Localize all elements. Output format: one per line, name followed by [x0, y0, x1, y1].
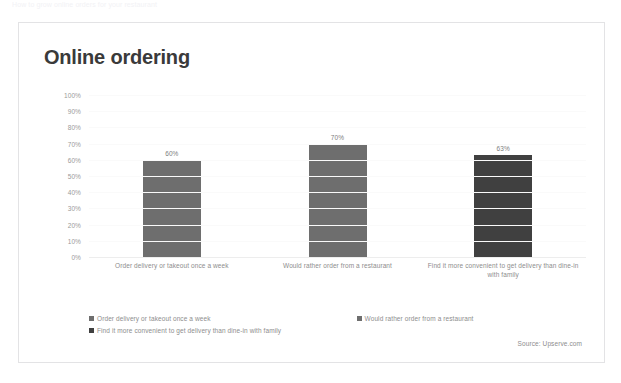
gridline-30: [89, 208, 586, 209]
legend-row-top: Order delivery or takeout once a week Wo…: [89, 315, 559, 322]
gridline-90: [89, 111, 586, 112]
y-axis-tick-100: 100%: [64, 92, 81, 99]
y-axis-tick-0: 0%: [71, 254, 81, 261]
y-axis-tick-90: 90%: [68, 108, 81, 115]
legend-label-2: Find it more convenient to get delivery …: [97, 327, 281, 334]
gridline-10: [89, 241, 586, 242]
plot-area: 60%70%63%: [89, 95, 586, 257]
y-axis-tick-30: 30%: [68, 205, 81, 212]
gridline-50: [89, 176, 586, 177]
legend-swatch-icon-2: [89, 328, 94, 333]
legend-label-1: Would rather order from a restaurant: [365, 315, 474, 322]
y-axis-tick-10: 10%: [68, 237, 81, 244]
gridline-80: [89, 127, 586, 128]
y-axis-tick-20: 20%: [68, 221, 81, 228]
y-axis-tick-70: 70%: [68, 140, 81, 147]
legend-swatch-icon-1: [357, 316, 362, 321]
source-attribution: Source: Upserve.com: [518, 340, 582, 347]
gridline-0: [89, 257, 586, 258]
gridline-60: [89, 160, 586, 161]
chart-legend: Order delivery or takeout once a week Wo…: [89, 315, 559, 339]
chart-plot: 100%90%80%70%60%50%40%30%20%10%0% 60%70%…: [45, 95, 590, 291]
legend-item-0[interactable]: Order delivery or takeout once a week: [89, 315, 211, 322]
y-axis-tick-40: 40%: [68, 189, 81, 196]
page-title: Online ordering: [44, 46, 190, 69]
bar-value-label-0: 60%: [165, 150, 178, 157]
gridline-40: [89, 192, 586, 193]
x-axis-label-1: Would rather order from a restaurant: [255, 261, 421, 279]
gridline-70: [89, 144, 586, 145]
x-axis-labels: Order delivery or takeout once a weekWou…: [89, 261, 586, 279]
page-header-strip: How to grow online orders for your resta…: [12, 0, 272, 9]
chart-card: Online ordering 100%90%80%70%60%50%40%30…: [18, 22, 605, 363]
bar-value-label-2: 63%: [497, 145, 510, 152]
legend-label-0: Order delivery or takeout once a week: [97, 315, 211, 322]
legend-row-bottom: Find it more convenient to get delivery …: [89, 327, 559, 334]
gridline-100: [89, 95, 586, 96]
legend-item-2[interactable]: Find it more convenient to get delivery …: [89, 327, 281, 334]
x-axis-label-0: Order delivery or takeout once a week: [89, 261, 255, 279]
legend-swatch-icon-0: [89, 316, 94, 321]
y-axis-tick-50: 50%: [68, 173, 81, 180]
x-axis-label-2: Find it more convenient to get delivery …: [420, 261, 586, 279]
bar-value-label-1: 70%: [331, 134, 344, 141]
y-axis: 100%90%80%70%60%50%40%30%20%10%0%: [45, 95, 85, 257]
y-axis-tick-60: 60%: [68, 156, 81, 163]
legend-item-1[interactable]: Would rather order from a restaurant: [357, 315, 474, 322]
y-axis-tick-80: 80%: [68, 124, 81, 131]
gridline-20: [89, 225, 586, 226]
